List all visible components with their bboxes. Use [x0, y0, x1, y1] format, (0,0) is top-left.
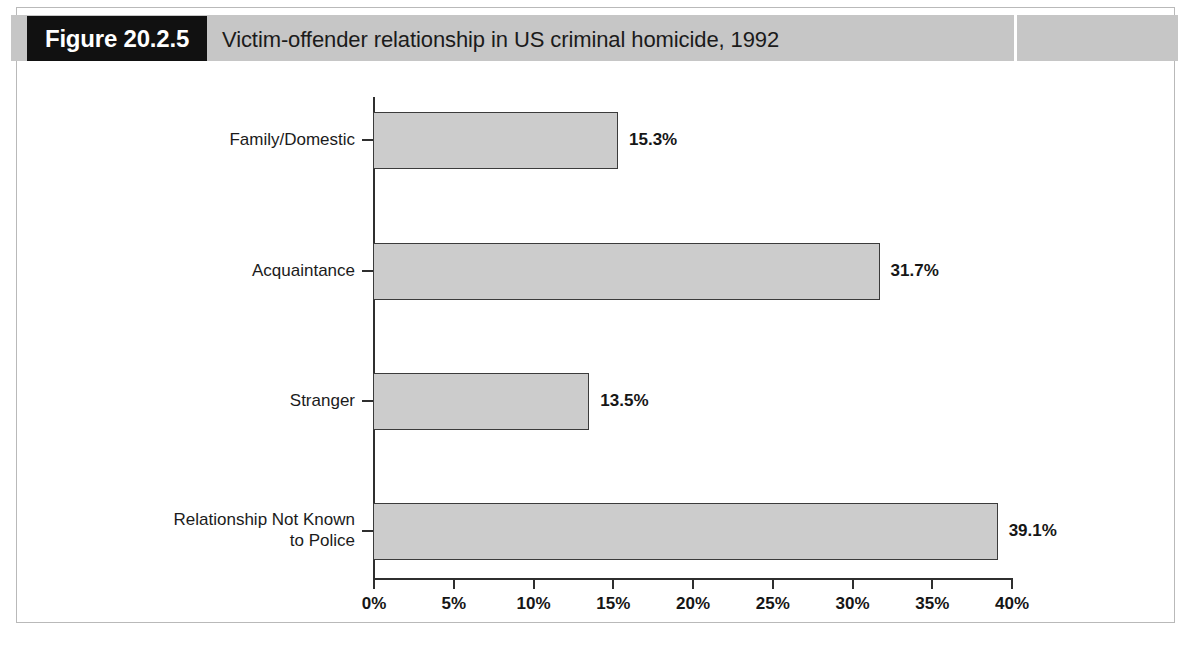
- figure-label-box: Figure 20.2.5: [27, 16, 207, 61]
- figure-frame: [16, 7, 1175, 623]
- header-band-divider: [1014, 15, 1017, 61]
- figure-title: Victim-offender relationship in US crimi…: [222, 27, 779, 53]
- figure-label-text: Figure 20.2.5: [45, 25, 189, 53]
